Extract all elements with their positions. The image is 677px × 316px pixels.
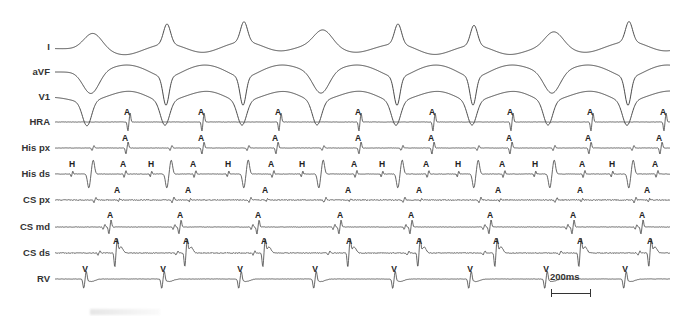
- a-deflection-label: A: [416, 186, 422, 195]
- a-deflection-label: A: [177, 211, 183, 220]
- a-deflection-label: A: [495, 186, 501, 195]
- a-deflection-label: A: [198, 134, 204, 143]
- a-deflection-label: A: [423, 160, 429, 169]
- channel-label-cs-md: CS md: [20, 221, 50, 232]
- a-deflection-label: A: [255, 211, 261, 220]
- a-deflection-label: A: [113, 237, 119, 246]
- trace-avf: [55, 65, 670, 105]
- channel-label-avf: aVF: [33, 66, 50, 77]
- channel-label-his-px: His px: [21, 142, 50, 153]
- a-deflection-label: A: [577, 186, 583, 195]
- a-deflection-label: A: [275, 108, 281, 117]
- a-deflection-label: A: [487, 211, 493, 220]
- a-deflection-label: A: [507, 108, 513, 117]
- a-deflection-label: A: [268, 160, 274, 169]
- h-deflection-label: H: [455, 160, 461, 169]
- h-deflection-label: H: [532, 160, 538, 169]
- channel-label-cs-ds: CS ds: [23, 247, 50, 258]
- a-deflection-label: A: [656, 134, 662, 143]
- v-deflection-label: V: [467, 265, 473, 274]
- a-deflection-label: A: [355, 134, 361, 143]
- a-deflection-label: A: [198, 108, 204, 117]
- a-deflection-label: A: [587, 108, 593, 117]
- channel-label-rv: RV: [37, 273, 50, 284]
- a-deflection-label: A: [499, 160, 505, 169]
- a-deflection-label: A: [408, 211, 414, 220]
- a-deflection-label: A: [355, 108, 361, 117]
- channel-label-his-ds: His ds: [21, 168, 50, 179]
- h-deflection-label: H: [148, 160, 154, 169]
- v-deflection-label: V: [543, 265, 549, 274]
- channel-label-i: I: [47, 41, 50, 52]
- a-deflection-label: A: [351, 160, 357, 169]
- scale-bar-label: 200ms: [550, 271, 580, 282]
- a-deflection-label: A: [185, 186, 191, 195]
- a-deflection-label: A: [639, 211, 645, 220]
- a-deflection-label: A: [190, 160, 196, 169]
- scale-bar: [551, 285, 591, 294]
- a-deflection-label: A: [579, 160, 585, 169]
- trace-i: [55, 22, 670, 55]
- a-deflection-label: A: [428, 134, 434, 143]
- trace-hra: [55, 113, 670, 131]
- a-deflection-label: A: [262, 186, 268, 195]
- v-deflection-label: V: [237, 265, 243, 274]
- a-deflection-label: A: [114, 186, 120, 195]
- a-deflection-label: A: [272, 134, 278, 143]
- a-deflection-label: A: [337, 211, 343, 220]
- a-deflection-label: A: [652, 160, 658, 169]
- a-deflection-label: A: [261, 237, 267, 246]
- a-deflection-label: A: [660, 108, 666, 117]
- a-deflection-label: A: [346, 237, 352, 246]
- h-deflection-label: H: [299, 160, 305, 169]
- egm-tracing: [0, 0, 677, 316]
- a-deflection-label: A: [493, 237, 499, 246]
- a-deflection-label: A: [429, 108, 435, 117]
- trace-cs-px: [55, 197, 670, 203]
- a-deflection-label: A: [585, 134, 591, 143]
- a-deflection-label: A: [647, 237, 653, 246]
- a-deflection-label: A: [107, 211, 113, 220]
- channel-label-v1: V1: [38, 91, 50, 102]
- trace-cs-md: [55, 220, 670, 234]
- a-deflection-label: A: [124, 108, 130, 117]
- a-deflection-label: A: [122, 134, 128, 143]
- a-deflection-label: A: [120, 160, 126, 169]
- channel-label-hra: HRA: [29, 116, 50, 127]
- h-deflection-label: H: [225, 160, 231, 169]
- trace-his-px: [55, 142, 670, 154]
- a-deflection-label: A: [644, 186, 650, 195]
- v-deflection-label: V: [160, 265, 166, 274]
- a-deflection-label: A: [183, 237, 189, 246]
- v-deflection-label: V: [312, 265, 318, 274]
- h-deflection-label: H: [609, 160, 615, 169]
- a-deflection-label: A: [506, 134, 512, 143]
- a-deflection-label: A: [577, 237, 583, 246]
- channel-label-cs-px: CS px: [23, 194, 50, 205]
- v-deflection-label: V: [391, 265, 397, 274]
- h-deflection-label: H: [379, 160, 385, 169]
- h-deflection-label: H: [69, 160, 75, 169]
- a-deflection-label: A: [345, 186, 351, 195]
- a-deflection-label: A: [416, 237, 422, 246]
- v-deflection-label: V: [82, 265, 88, 274]
- v-deflection-label: V: [622, 265, 628, 274]
- a-deflection-label: A: [570, 211, 576, 220]
- watermark-smudge: [90, 309, 160, 315]
